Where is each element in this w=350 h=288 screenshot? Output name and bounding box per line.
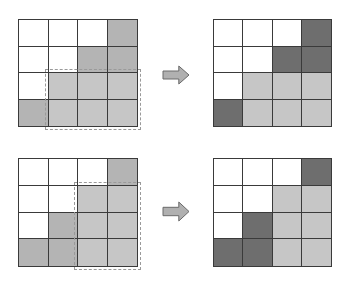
right-arrow-icon [162,65,190,85]
grid-cell-light [302,186,331,213]
grid-cell-white [214,213,243,240]
grid-cell-white [19,213,49,240]
grid-cell-light [78,186,108,213]
grid-bottom-after [213,158,332,267]
grid-cell-medium [19,239,49,266]
grid-cell-dark [302,159,331,186]
grid-cell-white [243,159,272,186]
grid-cell-white [243,47,272,74]
grid-cell-light [49,73,79,100]
grid-cell-dark [214,239,243,266]
grid-cell-light [302,239,331,266]
grid-cell-white [78,20,108,47]
grid-bottom-before [18,158,138,267]
grid-cell-medium [19,100,49,127]
grid-cell-white [49,47,79,74]
grid-cell-light [78,73,108,100]
grid-cell-dark [302,20,331,47]
grid-cell-white [273,159,302,186]
grid-cell-light [108,73,138,100]
grid-cell-medium [49,239,79,266]
grid-cell-white [49,20,79,47]
grid-cell-light [302,213,331,240]
grid-cell-white [19,47,49,74]
grid-cell-light [108,186,138,213]
grid-cell-light [273,239,302,266]
grid-cell-light [49,100,79,127]
grid-cell-light [243,73,272,100]
grid-cell-dark [243,213,272,240]
grid-cell-dark [302,47,331,74]
grid-cell-white [214,159,243,186]
grid-cell-light [302,73,331,100]
grid-cell-white [19,20,49,47]
grid-cell-medium [78,47,108,74]
grid-cell-light [108,239,138,266]
grid-cell-white [273,20,302,47]
grid-cell-white [214,47,243,74]
grid-cell-light [273,213,302,240]
grid-cell-medium [108,47,138,74]
grid-cell-white [19,73,49,100]
grid-cell-light [78,100,108,127]
grid-cell-light [273,186,302,213]
grid-cell-white [78,159,108,186]
grid-cell-white [49,159,79,186]
grid-cell-white [243,20,272,47]
grid-cell-white [214,186,243,213]
grid-cell-white [19,159,49,186]
grid-cell-light [108,213,138,240]
grid-top-before [18,19,138,127]
right-arrow-icon [162,201,190,222]
grid-cell-medium [108,20,138,47]
grid-cell-white [243,186,272,213]
grid-cell-dark [273,47,302,74]
grid-cell-medium [108,159,138,186]
grid-cell-dark [214,100,243,127]
grid-top-after [213,19,332,127]
grid-cell-light [108,100,138,127]
grid-cell-medium [49,213,79,240]
grid-cell-light [273,100,302,127]
grid-cell-light [302,100,331,127]
grid-cell-white [214,20,243,47]
grid-cell-light [243,100,272,127]
grid-cell-light [273,73,302,100]
grid-cell-white [19,186,49,213]
grid-cell-dark [243,239,272,266]
grid-cell-white [49,186,79,213]
grid-cell-white [214,73,243,100]
grid-cell-light [78,239,108,266]
grid-cell-light [78,213,108,240]
